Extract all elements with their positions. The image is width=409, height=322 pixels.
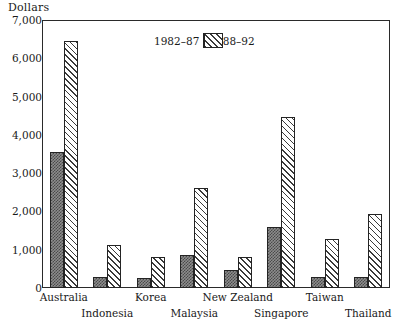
bar-taiwan-series-b [325, 239, 339, 288]
y-tick-label: 3,000 [2, 167, 42, 179]
bar-korea-series-b [151, 257, 165, 288]
x-axis-label-australia: Australia [40, 291, 88, 303]
bar-australia-series-b [64, 41, 78, 288]
x-axis-label-korea: Korea [135, 291, 166, 303]
bar-taiwan-series-a [311, 277, 325, 288]
y-tick-label: 2,000 [2, 205, 42, 217]
y-axis-tick-labels: 01,0002,0003,0004,0005,0006,0007,000 [0, 0, 42, 322]
bar-thailand-series-b [368, 214, 382, 288]
x-axis-label-malaysia: Malaysia [170, 307, 218, 319]
bar-indonesia-series-a [93, 277, 107, 288]
x-axis-labels: AustraliaIndonesiaKoreaMalaysiaNew Zeala… [0, 288, 409, 322]
legend-swatch-1988-92 [204, 33, 223, 48]
bar-new-zealand-series-b [238, 257, 252, 288]
legend-label-1982-87: 1982–87 [150, 35, 203, 47]
x-axis-label-thailand: Thailand [345, 307, 392, 319]
bars-container [42, 20, 390, 288]
bar-thailand-series-a [354, 277, 368, 288]
x-axis-label-new-zealand: New Zealand [202, 291, 273, 303]
bar-indonesia-series-b [107, 245, 121, 288]
legend-swatches [203, 33, 205, 48]
x-axis-label-taiwan: Taiwan [306, 291, 344, 303]
bar-new-zealand-series-a [224, 270, 238, 288]
bar-chart: Dollars 01,0002,0003,0004,0005,0006,0007… [0, 0, 409, 322]
bar-malaysia-series-b [194, 188, 208, 288]
bar-korea-series-a [137, 278, 151, 288]
bar-australia-series-a [50, 152, 64, 288]
y-tick-label: 6,000 [2, 52, 42, 64]
bar-singapore-series-a [267, 227, 281, 288]
y-tick-label: 4,000 [2, 129, 42, 141]
y-tick-label: 5,000 [2, 91, 42, 103]
y-tick-label: 7,000 [2, 14, 42, 26]
x-axis-label-singapore: Singapore [254, 307, 309, 319]
y-tick-label: 1,000 [2, 244, 42, 256]
x-axis-label-indonesia: Indonesia [81, 307, 133, 319]
bar-malaysia-series-a [180, 255, 194, 288]
chart-legend: 1982–87 1988–92 [150, 33, 259, 48]
bar-singapore-series-b [281, 117, 295, 288]
